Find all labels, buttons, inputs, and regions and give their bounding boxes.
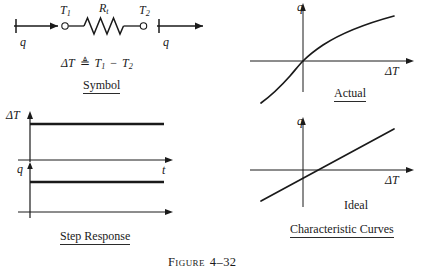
symbol-panel: T1 Rt T2 q q ΔT ≜ T1 − T2 Symbol [0, 0, 218, 100]
upper-time-axis [18, 157, 173, 163]
delta-t-equation: ΔT ≜ T1 − T2 [61, 57, 133, 71]
step-x-axis-label-t: t [162, 164, 165, 176]
ideal-caption: Ideal [344, 199, 368, 211]
left-heat-flow-arrow [14, 19, 58, 33]
ideal-x-axis-label: ΔT [385, 174, 399, 186]
resistor-zigzag [84, 18, 124, 34]
figure-caption-prefix: Figure [168, 255, 205, 269]
step-response-plot [0, 106, 200, 226]
q-vertical-axis [27, 162, 33, 218]
actual-caption: Actual [334, 87, 366, 99]
actual-y-axis-label: q [297, 1, 303, 13]
symbol-caption: Symbol [83, 79, 120, 91]
element-label-rt: Rt [99, 2, 109, 16]
step-response-caption: Step Response [60, 230, 130, 242]
terminal-node-right [140, 23, 146, 29]
figure-caption-number: 4–32 [210, 255, 237, 269]
ideal-curve-panel: q ΔT Ideal Characteristic Curves [228, 112, 429, 258]
step-response-panel: ΔT q t Step Response [0, 106, 218, 256]
terminal-label-right: T2 [139, 4, 150, 18]
terminal-node-left [62, 23, 68, 29]
step-y-axis-label-delta-t: ΔT [6, 109, 20, 121]
heat-flow-label-right: q [163, 36, 169, 48]
delta-t-vertical-axis [27, 111, 33, 162]
step-y-axis-label-q: q [17, 163, 23, 175]
actual-x-axis-label: ΔT [385, 65, 399, 77]
ideal-curve [261, 129, 394, 201]
ideal-characteristic-plot [228, 112, 429, 212]
actual-characteristic-plot [228, 0, 429, 92]
heat-flow-label-left: q [20, 36, 26, 48]
lower-time-axis [18, 209, 173, 215]
ideal-y-axis-label: q [297, 115, 303, 127]
actual-y-axis [300, 3, 306, 92]
characteristic-curves-caption: Characteristic Curves [290, 223, 394, 235]
right-heat-flow-arrow [157, 19, 203, 33]
terminal-label-left: T1 [60, 4, 71, 18]
actual-curve [261, 16, 394, 103]
figure-caption: Figure4–32 [168, 256, 236, 269]
actual-curve-panel: q ΔT Actual [228, 0, 429, 110]
ideal-y-axis [300, 117, 306, 207]
